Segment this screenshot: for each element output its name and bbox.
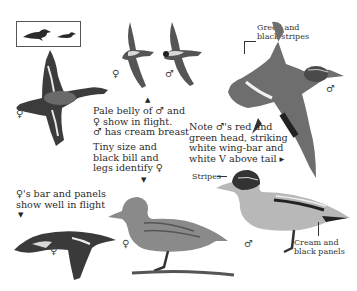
female-symbol: ♀ — [112, 68, 119, 79]
caption-cream-black-panels: Cream and black panels — [294, 238, 345, 256]
female-flying-low-illustration — [12, 212, 117, 282]
male-symbol: ♂ — [326, 83, 335, 94]
caption-tiny-size: Tiny size and black bill and legs identi… — [93, 142, 163, 174]
pointer-up-icon: ▲ — [145, 96, 150, 104]
male-symbol: ♂ — [244, 238, 253, 249]
male-flying-small-illustration — [162, 20, 207, 90]
caption-pale-belly: Pale belly of ♂ and ♀ show in flight. ♂ … — [93, 106, 189, 138]
female-standing-illustration — [104, 183, 229, 283]
leader-line — [318, 222, 319, 236]
male-symbol: ♂ — [165, 68, 174, 79]
female-symbol: ♀ — [122, 238, 129, 249]
caption-female-bar: ♀'s bar and panels show well in flight — [16, 189, 106, 210]
caption-note-male: Note ♂'s red and green head, striking wh… — [189, 122, 288, 164]
female-flying-small-illustration — [118, 20, 158, 90]
size-silhouettes-icon — [17, 22, 80, 46]
female-symbol: ♀ — [16, 108, 23, 119]
size-comparison-box — [16, 21, 81, 47]
female-symbol: ♀ — [50, 245, 57, 256]
